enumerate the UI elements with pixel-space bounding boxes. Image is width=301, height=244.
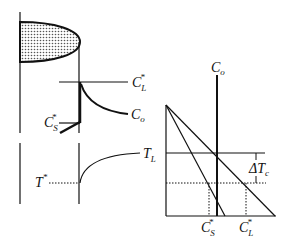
t-star-label: T* [35, 172, 48, 190]
shaded-solid-region [20, 22, 80, 62]
co-decay-curve [81, 84, 128, 114]
co-phase-label: Co [211, 60, 225, 77]
cs-star-axis-label: CS* [201, 217, 215, 238]
tl-label: TL [143, 146, 156, 164]
delta-tc-label: ΔTc [248, 161, 269, 178]
cl-star-axis-label: CL* [239, 217, 253, 238]
interface-panel [20, 12, 80, 204]
solidification-diagram: CL* Co CS* T* TL Co ΔTc CS* CL* [0, 0, 301, 244]
concentration-profile: CL* Co CS* [44, 72, 146, 133]
phase-diagram: Co ΔTc CS* CL* [166, 60, 276, 238]
co-label: Co [131, 107, 145, 124]
temperature-profile: T* TL [35, 146, 156, 190]
temperature-curve [80, 153, 140, 183]
cs-star-label: CS* [44, 112, 58, 133]
solid-diagonal [60, 122, 80, 133]
cl-star-label: CL* [132, 72, 146, 93]
